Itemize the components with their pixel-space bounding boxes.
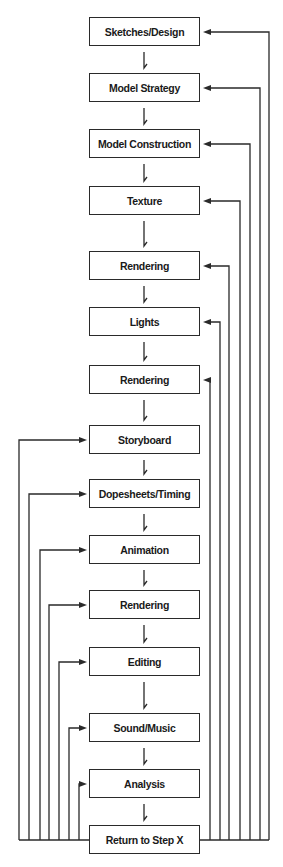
return-line xyxy=(206,380,210,840)
down-arrow-icon xyxy=(144,682,147,708)
workflow-diagram: Sketches/DesignModel StrategyModel Const… xyxy=(0,0,283,867)
step-box-sound-music: Sound/Music xyxy=(89,713,200,742)
down-arrow-icon xyxy=(144,570,147,585)
down-arrow-icon xyxy=(144,52,147,68)
arrowhead-right-icon xyxy=(79,602,87,608)
step-box-dopesheets-timing: Dopesheets/Timing xyxy=(89,479,200,508)
arrowhead-left-icon xyxy=(203,319,211,325)
arrowhead-right-icon xyxy=(79,781,87,787)
step-box-model-construction: Model Construction xyxy=(89,129,200,158)
arrowhead-right-icon xyxy=(79,547,87,553)
arrowhead-right-icon xyxy=(79,659,87,665)
arrowhead-left-icon xyxy=(203,263,211,269)
step-box-texture: Texture xyxy=(89,186,200,215)
down-arrow-icon xyxy=(144,514,147,530)
down-arrow-icon xyxy=(144,286,147,302)
step-box-rendering: Rendering xyxy=(89,365,200,394)
step-box-lights: Lights xyxy=(89,307,200,336)
arrowhead-right-icon xyxy=(79,491,87,497)
down-arrow-icon xyxy=(144,460,147,474)
down-arrow-icon xyxy=(144,342,147,360)
step-box-sketches-design: Sketches/Design xyxy=(89,17,200,46)
arrowhead-left-icon xyxy=(203,85,211,91)
arrowhead-left-icon xyxy=(203,29,211,35)
return-line xyxy=(29,494,83,840)
return-line xyxy=(79,784,83,840)
down-arrow-icon xyxy=(144,164,147,181)
arrowhead-left-icon xyxy=(203,198,211,204)
arrowhead-left-icon xyxy=(203,377,211,383)
return-line xyxy=(40,550,83,840)
step-box-rendering: Rendering xyxy=(89,590,200,619)
step-box-editing: Editing xyxy=(89,647,200,676)
down-arrow-icon xyxy=(144,400,147,420)
return-line xyxy=(206,322,220,840)
return-line xyxy=(206,201,240,840)
return-line xyxy=(206,144,250,840)
step-box-analysis: Analysis xyxy=(89,769,200,798)
step-box-rendering: Rendering xyxy=(89,251,200,280)
step-box-animation: Animation xyxy=(89,535,200,564)
step-box-model-strategy: Model Strategy xyxy=(89,73,200,102)
down-arrow-icon xyxy=(144,748,147,764)
down-arrow-icon xyxy=(144,804,147,820)
arrowhead-right-icon xyxy=(79,725,87,731)
down-arrow-icon xyxy=(144,221,147,246)
down-arrow-icon xyxy=(144,625,147,642)
return-line xyxy=(49,605,83,840)
step-box-return-to-step-x: Return to Step X xyxy=(89,825,200,854)
arrowhead-right-icon xyxy=(79,437,87,443)
arrowhead-left-icon xyxy=(203,141,211,147)
step-box-storyboard: Storyboard xyxy=(89,425,200,454)
down-arrow-icon xyxy=(144,108,147,124)
